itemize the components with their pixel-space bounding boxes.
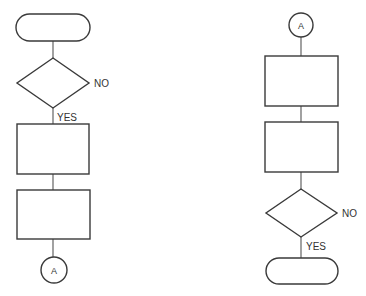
start-terminal bbox=[16, 14, 90, 41]
process-box bbox=[265, 122, 338, 172]
right-flowchart: A NO YES bbox=[265, 13, 357, 284]
yes-label: YES bbox=[57, 112, 77, 123]
process-box bbox=[17, 124, 89, 174]
no-label: NO bbox=[342, 208, 357, 219]
yes-label: YES bbox=[306, 241, 326, 252]
flowchart-canvas: NO YES A A NO YES bbox=[0, 0, 366, 296]
connector-label: A bbox=[51, 266, 57, 276]
end-terminal bbox=[266, 258, 338, 284]
left-flowchart: NO YES A bbox=[16, 14, 109, 283]
decision-diamond bbox=[17, 58, 89, 108]
process-box bbox=[265, 56, 338, 106]
no-label: NO bbox=[94, 78, 109, 89]
connector-label: A bbox=[298, 21, 304, 31]
decision-diamond bbox=[266, 189, 337, 237]
process-box bbox=[17, 190, 90, 239]
